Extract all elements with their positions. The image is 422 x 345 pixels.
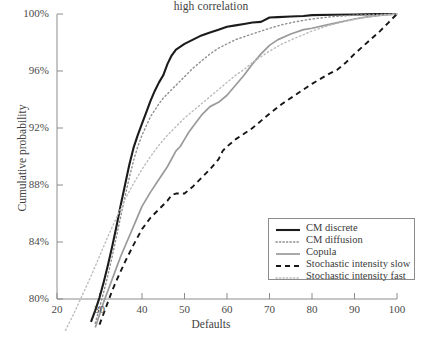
y-tick-label: 96%	[9, 64, 49, 76]
legend-label-cm-diffusion: CM diffusion	[306, 234, 363, 246]
legend-item-stochastic-intensity-fast[interactable]: Stochastic intensity fast	[275, 270, 406, 282]
legend-item-cm-discrete[interactable]: CM discrete	[275, 222, 358, 234]
legend-label-stochastic-intensity-fast: Stochastic intensity fast	[306, 270, 406, 282]
legend-swatch-stochastic-intensity-slow	[275, 258, 301, 270]
plot-area	[0, 0, 422, 345]
x-tick-label: 90	[337, 303, 373, 315]
legend-label-cm-discrete: CM discrete	[306, 222, 358, 234]
legend-swatch-stochastic-intensity-fast	[275, 270, 301, 282]
x-tick-label: 60	[209, 303, 245, 315]
legend-item-cm-diffusion[interactable]: CM diffusion	[275, 234, 363, 246]
legend: CM discrete CM diffusion Copula Stochast…	[268, 218, 415, 280]
y-tick-label: 84%	[9, 235, 49, 247]
x-tick-label: 50	[167, 303, 203, 315]
legend-swatch-cm-diffusion	[275, 234, 301, 246]
legend-swatch-cm-discrete	[275, 222, 301, 234]
y-tick-label: 88%	[9, 178, 49, 190]
x-tick-label: 80	[294, 303, 330, 315]
x-tick-label: 100	[379, 303, 415, 315]
y-tick-label: 100%	[9, 7, 49, 19]
x-tick-label: 30	[82, 303, 118, 315]
legend-label-copula: Copula	[306, 246, 336, 258]
x-tick-label: 40	[124, 303, 160, 315]
y-tick-label: 92%	[9, 121, 49, 133]
legend-item-stochastic-intensity-slow[interactable]: Stochastic intensity slow	[275, 258, 410, 270]
x-tick-label: 20	[39, 303, 75, 315]
legend-item-copula[interactable]: Copula	[275, 246, 336, 258]
legend-swatch-copula	[275, 246, 301, 258]
legend-label-stochastic-intensity-slow: Stochastic intensity slow	[306, 258, 410, 270]
chart-container: high correlation Cumulative probability …	[0, 0, 422, 345]
series-lines	[66, 14, 398, 330]
x-tick-label: 70	[252, 303, 288, 315]
